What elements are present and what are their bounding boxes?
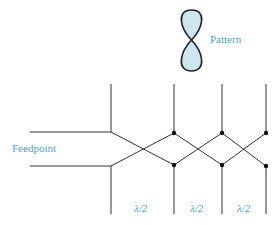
spacing-label-3: λ/2: [237, 202, 250, 214]
spacing-label-1: λ/2: [134, 202, 147, 214]
cross-1b: [111, 133, 174, 166]
pattern-label: Pattern: [210, 33, 241, 45]
cross-1a: [111, 132, 174, 165]
feed-network: [30, 84, 266, 214]
pattern-lobe-top: [181, 10, 201, 40]
pattern-lobe-bottom: [181, 40, 201, 71]
feedpoint-label: Feedpoint: [12, 142, 56, 154]
junction-dots: [172, 131, 268, 168]
radiation-pattern: [181, 10, 201, 71]
spacing-label-2: λ/2: [190, 202, 203, 214]
